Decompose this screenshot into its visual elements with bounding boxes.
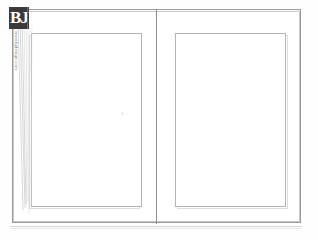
bj-logo[interactable]: BJ [9,7,29,29]
spine-divider [156,9,157,224]
logo-rule [27,7,28,29]
document-canvas: BJ www.bjdesign.com [0,0,318,240]
baseline-rule [10,226,302,227]
left-page-content-area[interactable] [31,33,142,207]
baseline-rule-secondary [10,228,302,229]
page-speck-mark [121,112,124,115]
right-page-content-area[interactable] [175,33,286,207]
vertical-url-caption: www.bjdesign.com [11,31,21,83]
